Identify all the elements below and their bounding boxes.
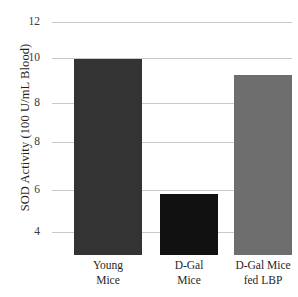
y-axis-tick-label: 10 (0, 51, 40, 63)
y-axis-title: SOD Activity (100 U/mL Blood) (18, 8, 33, 248)
bar (234, 75, 292, 256)
bar (74, 59, 142, 255)
x-axis-category-labels: YoungMiceD-GalMiceD-Gal Micefed LBP (52, 258, 292, 296)
category-label-line: fed LBP (220, 273, 298, 288)
bar (160, 194, 218, 255)
y-axis-tick-label: 8 (0, 96, 40, 108)
y-axis-tick-label: 8 (0, 135, 40, 147)
plot-area: 12108864 (52, 14, 292, 255)
y-axis-tick-label: 4 (0, 225, 40, 237)
x-axis-category-label: D-Gal Micefed LBP (220, 258, 298, 287)
category-label-line: D-Gal Mice (220, 258, 298, 273)
sod-activity-bar-chart: SOD Activity (100 U/mL Blood) 12108864 Y… (0, 0, 298, 297)
y-axis-tick-label: 6 (0, 183, 40, 195)
y-axis-tick-label: 12 (0, 15, 40, 27)
bar-series (52, 14, 292, 255)
